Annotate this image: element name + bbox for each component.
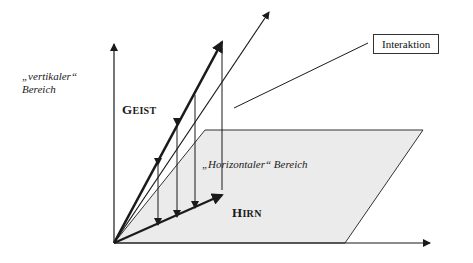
brain-label-rest: IRN bbox=[242, 208, 261, 219]
vertical-region-label-line1: „vertikaler“ bbox=[22, 70, 77, 83]
mind-label-initial: G bbox=[122, 102, 132, 117]
horizontal-plane bbox=[114, 130, 423, 243]
brain-label: HIRN bbox=[232, 205, 262, 221]
horizontal-region-label: „Horizontaler“ Bereich bbox=[202, 158, 308, 170]
brain-label-initial: H bbox=[232, 205, 242, 220]
vertical-region-label: „vertikaler“ Bereich bbox=[22, 70, 77, 96]
diagram: „vertikaler“ Bereich GEIST „Horizontaler… bbox=[0, 0, 473, 263]
mind-label-rest: EIST bbox=[132, 105, 156, 116]
interaction-box: Interaktion bbox=[373, 34, 439, 54]
mind-label: GEIST bbox=[122, 102, 156, 118]
vertical-region-label-line2: Bereich bbox=[22, 83, 77, 96]
interaction-pointer bbox=[234, 43, 368, 108]
